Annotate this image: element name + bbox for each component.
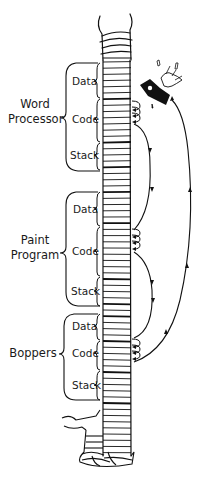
program-name-line2: Processor [8, 114, 62, 126]
arrow-boppers-to-crash [134, 100, 191, 362]
code-loop-arrows [132, 101, 140, 359]
program-name-line1: Boppers [6, 348, 60, 360]
segment-label-data: Data [73, 204, 98, 215]
program-label-word-processor: Word Processor [8, 99, 62, 125]
flying-toaster-icon [140, 60, 182, 108]
segment-label-code: Code [72, 246, 99, 257]
code-loop-arrowheads [132, 108, 136, 361]
column-right-edge [130, 60, 131, 456]
segment-label-code: Code [72, 348, 99, 359]
program-name-line1: Paint [8, 235, 62, 247]
arrow-paint-to-boppers [134, 252, 152, 338]
arrow-word-to-paint [134, 124, 150, 230]
program-name-line1: Word [8, 99, 62, 111]
jump-arrows [134, 100, 191, 362]
segment-label-stack: Stack [72, 380, 101, 391]
segment-label-stack: Stack [70, 150, 99, 161]
memory-cells [103, 62, 131, 453]
column-base [62, 410, 134, 467]
program-label-boppers: Boppers [6, 348, 60, 360]
segment-label-code: Code [72, 114, 99, 125]
program-name-line2: Program [8, 250, 62, 262]
column-top-twist [98, 14, 132, 60]
segment-label-data: Data [72, 76, 97, 87]
segment-label-stack: Stack [71, 286, 100, 297]
segment-label-data: Data [72, 321, 97, 332]
program-label-paint-program: Paint Program [8, 235, 62, 261]
